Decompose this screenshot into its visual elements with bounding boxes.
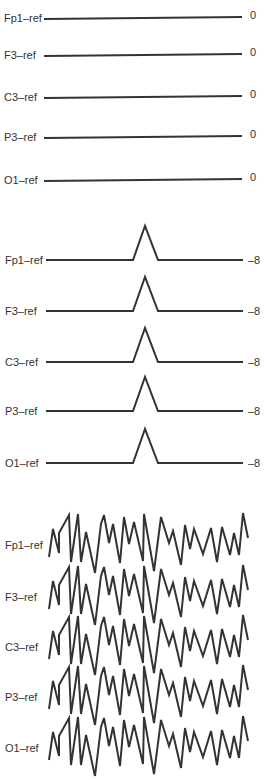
spike-trace bbox=[46, 429, 243, 463]
channel-value: 0 bbox=[250, 9, 256, 21]
channel-value: 0 bbox=[250, 171, 256, 183]
channel-value: –8 bbox=[248, 305, 260, 317]
channel-label: P3–ref bbox=[4, 131, 37, 143]
channel-label: P3–ref bbox=[5, 691, 38, 703]
channel-value: 0 bbox=[250, 46, 256, 58]
channel-label: C3–ref bbox=[5, 641, 39, 653]
spike-panel: Fp1–ref–8F3–ref–8C3–ref–8P3–ref–8O1–ref–… bbox=[5, 226, 260, 469]
noise-trace bbox=[49, 665, 248, 725]
channel-label: F3–ref bbox=[5, 591, 38, 603]
channel-label: C3–ref bbox=[5, 356, 39, 368]
noise-trace bbox=[49, 513, 248, 573]
channel-value: –8 bbox=[248, 356, 260, 368]
flat-panel: Fp1–ref0F3–ref0C3–ref0P3–ref0O1–ref0 bbox=[4, 9, 256, 186]
channel-value: –8 bbox=[248, 254, 260, 266]
channel-label: P3–ref bbox=[5, 405, 38, 417]
channel-label: F3–ref bbox=[4, 49, 37, 61]
flat-trace bbox=[44, 179, 242, 181]
flat-trace bbox=[44, 136, 242, 138]
eeg-montage-chart: Fp1–ref0F3–ref0C3–ref0P3–ref0O1–ref0 Fp1… bbox=[0, 0, 266, 780]
spike-trace bbox=[46, 377, 243, 411]
channel-label: Fp1–ref bbox=[5, 254, 44, 266]
channel-value: 0 bbox=[250, 88, 256, 100]
noise-panel: Fp1–refF3–refC3–refP3–refO1–ref bbox=[5, 513, 248, 776]
channel-value: 0 bbox=[250, 128, 256, 140]
channel-label: Fp1–ref bbox=[5, 539, 44, 551]
channel-label: C3–ref bbox=[4, 91, 38, 103]
spike-trace bbox=[46, 226, 243, 260]
channel-label: O1–ref bbox=[4, 174, 39, 186]
spike-trace bbox=[46, 328, 243, 362]
channel-value: –8 bbox=[248, 405, 260, 417]
flat-trace bbox=[44, 96, 242, 98]
channel-label: Fp1–ref bbox=[4, 12, 43, 24]
flat-trace bbox=[44, 54, 242, 56]
channel-label: O1–ref bbox=[5, 742, 40, 754]
channel-value: –8 bbox=[248, 457, 260, 469]
channel-label: O1–ref bbox=[5, 457, 40, 469]
noise-trace bbox=[49, 716, 248, 776]
flat-trace bbox=[44, 17, 242, 19]
spike-trace bbox=[46, 277, 243, 311]
channel-label: F3–ref bbox=[5, 305, 38, 317]
